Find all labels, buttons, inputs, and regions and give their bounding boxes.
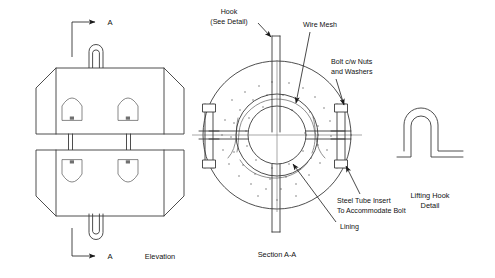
annotation-hook-line2: (See Detail) bbox=[210, 18, 247, 26]
annotation-hook: Hook (See Detail) bbox=[210, 8, 271, 37]
drawing-svg: A bbox=[0, 0, 495, 278]
detail-caption-line2: Detail bbox=[421, 201, 440, 210]
annotation-steel-tube: Steel Tube Insert To Accommodate Bolt bbox=[337, 166, 406, 215]
elevation-view: A bbox=[36, 18, 184, 261]
elevation-caption: Elevation bbox=[145, 252, 175, 261]
annotation-steel-tube-line1: Steel Tube Insert bbox=[337, 197, 391, 205]
elevation-upper-body bbox=[36, 68, 184, 134]
section-mark-bottom-label: A bbox=[107, 252, 113, 261]
section-hook-stem-bottom bbox=[272, 164, 280, 232]
elevation-mid-bolt-left bbox=[69, 134, 73, 150]
annotation-steel-tube-line2: To Accommodate Bolt bbox=[337, 207, 406, 215]
elevation-hook-top bbox=[89, 45, 103, 70]
section-hook-stem bbox=[272, 36, 280, 132]
annotation-hook-line1: Hook bbox=[221, 8, 238, 16]
annotation-lining-label: Lining bbox=[340, 223, 359, 231]
elevation-hook-bottom bbox=[89, 214, 103, 240]
engineering-drawing-canvas: A bbox=[0, 0, 495, 278]
elevation-lower-body bbox=[36, 150, 184, 216]
section-arrow-top: A bbox=[72, 18, 113, 58]
section-caption: Section A-A bbox=[258, 250, 297, 259]
annotation-bolt-line2: and Washers bbox=[331, 68, 373, 76]
annotation-bolt: Bolt c/w Nuts and Washers bbox=[331, 58, 373, 105]
annotation-bolt-line1: Bolt c/w Nuts bbox=[331, 58, 373, 66]
lifting-hook-detail: Lifting Hook Detail bbox=[397, 108, 463, 210]
annotation-wire-mesh-label: Wire Mesh bbox=[303, 21, 337, 29]
elevation-mid-bolt-right bbox=[127, 134, 131, 150]
section-mark-top-label: A bbox=[107, 18, 113, 27]
detail-caption-line1: Lifting Hook bbox=[410, 191, 449, 200]
bolt-assembly-left bbox=[199, 104, 219, 168]
